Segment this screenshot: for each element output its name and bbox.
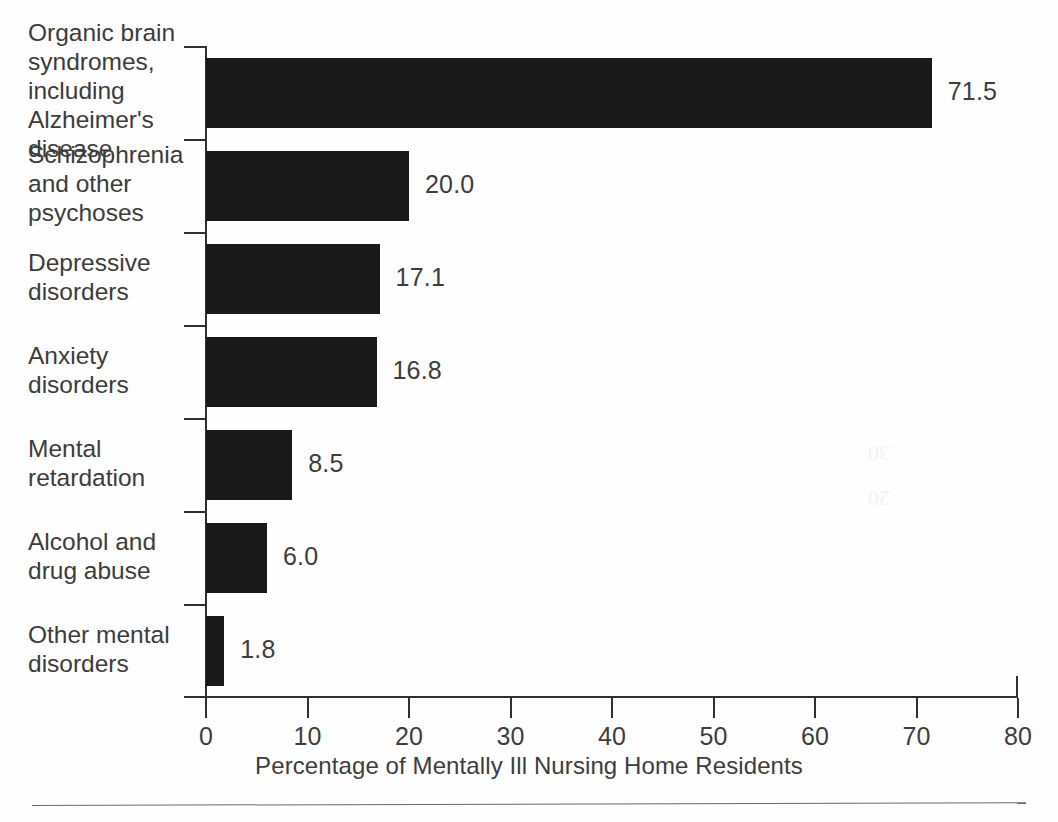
value-tick-label-10: 10: [293, 722, 321, 751]
category-tick-2: [184, 232, 206, 234]
value-tick-label-80: 80: [1004, 722, 1032, 751]
category-tick-0: [184, 46, 206, 48]
value-tick-30: [510, 698, 512, 718]
category-label-4: Mental retardation: [28, 434, 188, 492]
category-tick-3: [184, 325, 206, 327]
bar-6: [206, 616, 224, 686]
bar-value-label-2: 17.1: [396, 263, 445, 292]
footer-divider: [32, 802, 1026, 806]
bar-value-label-0: 71.5: [948, 77, 997, 106]
bar-3: [206, 337, 377, 407]
category-label-6: Other mental disorders: [28, 620, 188, 678]
category-label-3: Anxiety disorders: [28, 341, 188, 399]
value-tick-60: [814, 698, 816, 718]
value-tick-70: [916, 698, 918, 718]
bar-0: [206, 58, 932, 128]
value-tick-label-30: 30: [496, 722, 524, 751]
bar-value-label-3: 16.8: [393, 356, 442, 385]
value-tick-label-0: 0: [199, 722, 213, 751]
bar-value-label-5: 6.0: [283, 542, 318, 571]
bar-value-label-1: 20.0: [425, 170, 474, 199]
bar-chart-plot-area: 71.520.017.116.88.56.01.8 Organic brain …: [0, 0, 1058, 822]
value-tick-80: [1017, 698, 1019, 718]
scan-bleed-artifact-top: 30: [868, 440, 890, 466]
category-tick-1: [184, 139, 206, 141]
figure-container: 71.520.017.116.88.56.01.8 Organic brain …: [0, 0, 1058, 822]
value-tick-0: [205, 698, 207, 718]
bar-1: [206, 151, 409, 221]
category-label-2: Depressive disorders: [28, 248, 188, 306]
value-tick-label-20: 20: [395, 722, 423, 751]
scan-bleed-artifact-bottom: 20: [868, 485, 890, 511]
category-tick-4: [184, 418, 206, 420]
bar-5: [206, 523, 267, 593]
value-tick-label-50: 50: [699, 722, 727, 751]
bar-2: [206, 244, 380, 314]
value-axis-baseline: [184, 696, 1018, 698]
value-axis-end-cap: [1016, 676, 1018, 698]
category-tick-6: [184, 604, 206, 606]
value-tick-40: [611, 698, 613, 718]
bar-4: [206, 430, 292, 500]
value-tick-label-60: 60: [801, 722, 829, 751]
value-tick-20: [408, 698, 410, 718]
x-axis-title: Percentage of Mentally Ill Nursing Home …: [0, 752, 1058, 780]
value-tick-50: [713, 698, 715, 718]
category-label-1: Schizophrenia and other psychoses: [28, 140, 188, 227]
category-tick-5: [184, 511, 206, 513]
bar-value-label-6: 1.8: [240, 635, 275, 664]
value-tick-label-70: 70: [902, 722, 930, 751]
bar-value-label-4: 8.5: [308, 449, 343, 478]
category-label-5: Alcohol and drug abuse: [28, 527, 188, 585]
value-tick-label-40: 40: [598, 722, 626, 751]
value-tick-10: [307, 698, 309, 718]
